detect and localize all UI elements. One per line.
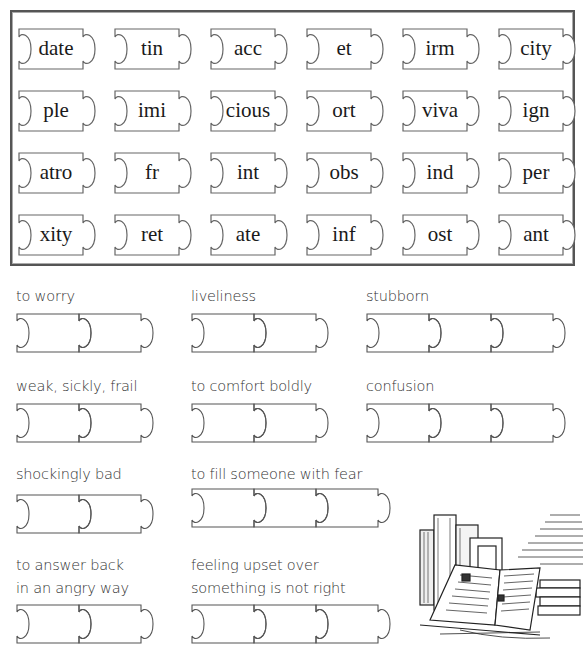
word-piece[interactable]: tin	[112, 27, 208, 71]
word-piece[interactable]: fr	[112, 151, 208, 195]
word-piece[interactable]: ost	[400, 213, 496, 257]
word-piece[interactable]: city	[496, 27, 588, 71]
answer-piece-outline	[79, 605, 153, 643]
word-piece-label: ple	[24, 97, 88, 123]
answer-piece-outline	[254, 404, 328, 442]
word-piece[interactable]: ind	[400, 151, 496, 195]
clue-line: something is not right	[191, 579, 346, 598]
word-piece-label: inf	[312, 221, 376, 247]
word-piece[interactable]: ple	[16, 89, 112, 133]
answer-slot[interactable]	[16, 403, 156, 445]
answer-piece-outline	[491, 404, 565, 442]
word-piece[interactable]: xity	[16, 213, 112, 257]
word-piece-label: viva	[408, 97, 472, 123]
word-piece-label: atro	[24, 159, 88, 185]
clue-text: liveliness	[191, 287, 256, 306]
answer-slot[interactable]	[191, 313, 331, 355]
clue-line: feeling upset over	[191, 556, 346, 575]
word-piece-label: per	[504, 159, 568, 185]
answer-piece-outline	[316, 605, 390, 643]
word-piece[interactable]: atro	[16, 151, 112, 195]
answer-piece-outline	[79, 495, 153, 533]
word-piece[interactable]: date	[16, 27, 112, 71]
word-piece-label: imi	[120, 97, 184, 123]
word-piece-label: city	[504, 35, 568, 61]
word-piece-label: fr	[120, 159, 184, 185]
answer-slot[interactable]	[366, 403, 568, 445]
word-piece[interactable]: obs	[304, 151, 400, 195]
word-piece[interactable]: imi	[112, 89, 208, 133]
clue-text: stubborn	[366, 287, 429, 306]
answer-slot[interactable]	[16, 604, 156, 646]
books-illustration-icon	[400, 470, 585, 640]
word-piece[interactable]: ant	[496, 213, 588, 257]
word-piece-label: xity	[24, 221, 88, 247]
word-piece-label: tin	[120, 35, 184, 61]
word-piece-label: ate	[216, 221, 280, 247]
answer-slot[interactable]	[366, 313, 568, 355]
word-piece-label: ort	[312, 97, 376, 123]
word-piece[interactable]: ret	[112, 213, 208, 257]
clue-text: weak, sickly, frail	[16, 377, 137, 396]
clue-text: shockingly bad	[16, 465, 122, 484]
word-piece-label: obs	[312, 159, 376, 185]
answer-slot[interactable]	[16, 494, 156, 536]
clue-text: to fill someone with fear	[191, 465, 362, 484]
word-piece[interactable]: ign	[496, 89, 588, 133]
answer-piece-outline	[79, 404, 153, 442]
word-piece-label: ant	[504, 221, 568, 247]
word-piece[interactable]: ate	[208, 213, 304, 257]
word-piece[interactable]: cious	[208, 89, 304, 133]
answer-piece-outline	[254, 314, 328, 352]
word-piece[interactable]: viva	[400, 89, 496, 133]
clue-text: to answer backin an angry way	[16, 556, 129, 598]
word-piece-label: ost	[408, 221, 472, 247]
clue-text: feeling upset oversomething is not right	[191, 556, 346, 598]
word-piece[interactable]: ort	[304, 89, 400, 133]
answer-slot[interactable]	[191, 604, 393, 646]
clue-text: confusion	[366, 377, 434, 396]
word-piece-label: et	[312, 35, 376, 61]
answer-slot[interactable]	[191, 488, 393, 530]
word-piece[interactable]: per	[496, 151, 588, 195]
word-piece-label: cious	[216, 97, 280, 123]
answer-slot[interactable]	[16, 313, 156, 355]
word-piece-label: date	[24, 35, 88, 61]
word-piece-label: int	[216, 159, 280, 185]
word-piece[interactable]: int	[208, 151, 304, 195]
answer-piece-outline	[79, 314, 153, 352]
clue-text: to comfort boldly	[191, 377, 312, 396]
word-piece-label: ign	[504, 97, 568, 123]
clue-line: in an angry way	[16, 579, 129, 598]
word-piece-label: acc	[216, 35, 280, 61]
word-piece[interactable]: inf	[304, 213, 400, 257]
word-piece[interactable]: et	[304, 27, 400, 71]
clue-line: to answer back	[16, 556, 129, 575]
clue-text: to worry	[16, 287, 75, 306]
word-piece-label: ind	[408, 159, 472, 185]
answer-piece-outline	[491, 314, 565, 352]
answer-piece-outline	[316, 489, 390, 527]
word-piece[interactable]: irm	[400, 27, 496, 71]
answer-slot[interactable]	[191, 403, 331, 445]
word-piece-label: ret	[120, 221, 184, 247]
word-piece-label: irm	[408, 35, 472, 61]
word-piece[interactable]: acc	[208, 27, 304, 71]
